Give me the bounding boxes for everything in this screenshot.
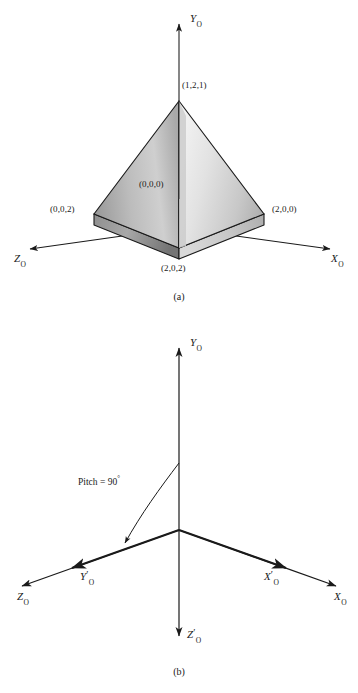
pyramid-ridge-sliver <box>179 101 186 248</box>
panel-b-drawing <box>0 318 358 693</box>
axis-label-x-o: XO <box>331 252 343 267</box>
axis-label-z-o-b: ZO <box>17 590 29 605</box>
panel-b-pitch: YO ZO XO Y′O X′O Z′O Pitch = 90° (b) <box>0 318 358 693</box>
x-prime-axis-line <box>179 530 286 568</box>
axis-label-y-prime-o: Y′O <box>80 570 94 585</box>
vertex-label-left-base: (0,0,2) <box>50 204 75 214</box>
vertex-label-apex: (1,2,1) <box>182 80 207 90</box>
axis-label-z-prime-o: Z′O <box>187 628 201 643</box>
vertex-label-front-base: (2,0,2) <box>161 263 186 273</box>
y-prime-axis-line <box>72 530 179 568</box>
pitch-annotation-label: Pitch = 90° <box>78 475 120 487</box>
panel-a-caption: (a) <box>0 291 358 302</box>
vertex-label-origin: (0,0,0) <box>139 179 164 189</box>
panel-a-pyramid: YO ZO XO (1,2,1) (0,0,0) (0,0,2) (2,0,0)… <box>0 0 358 318</box>
panel-b-caption: (b) <box>0 666 358 677</box>
axis-label-x-prime-o: X′O <box>264 570 279 585</box>
vertex-label-right-base: (2,0,0) <box>272 204 297 214</box>
figure-root: YO ZO XO (1,2,1) (0,0,0) (0,0,2) (2,0,0)… <box>0 0 358 693</box>
axis-label-y-o-b: YO <box>190 336 202 351</box>
axis-label-z-o: ZO <box>14 252 26 267</box>
pitch-arc <box>125 463 179 543</box>
axes-group-b <box>22 348 336 636</box>
axis-label-y-o: YO <box>190 12 202 27</box>
axis-label-x-o-b: XO <box>334 590 346 605</box>
